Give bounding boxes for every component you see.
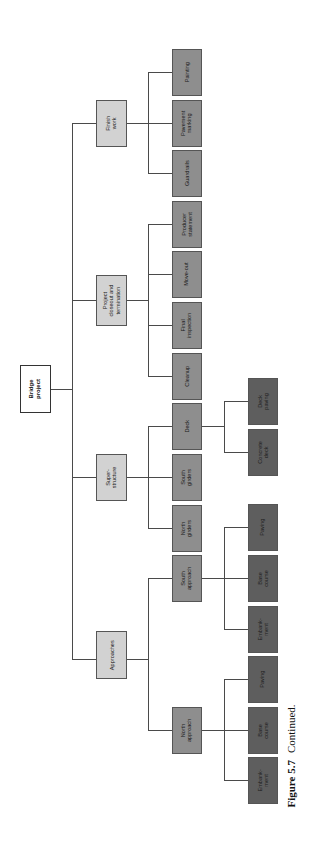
node-move-out: Move-out: [172, 251, 202, 298]
connector-level1-spine: [72, 123, 73, 660]
node-north-base-course: Base course: [248, 707, 278, 754]
node-finish-work: Finish work: [96, 100, 127, 147]
node-label: Move-out: [184, 263, 190, 286]
connector-finish-work-out: [127, 123, 149, 124]
node-producer-statement: Producer statement: [172, 201, 202, 248]
node-south-girders: South girders: [172, 454, 202, 501]
connector-producer-statement: [148, 224, 172, 225]
node-superstructure: Super- structure: [96, 454, 127, 501]
node-label: Approaches: [108, 640, 114, 670]
node-cleanup: Cleanup: [172, 353, 202, 400]
node-deck: Deck: [172, 403, 202, 450]
caption-body: Continued.: [285, 704, 297, 753]
node-south-approach: South approach: [172, 555, 202, 602]
connector-north-embankment: [224, 780, 248, 781]
node-bridge-project: Bridge project: [20, 365, 51, 413]
connector-final-inspection: [148, 325, 172, 326]
node-label: Bridge project: [28, 379, 42, 399]
node-label: Paving: [260, 671, 266, 688]
node-label: Guardrails: [184, 161, 190, 187]
node-label: Deck: [184, 420, 190, 433]
node-label: Deck paving: [257, 393, 270, 409]
connector-deck: [148, 426, 172, 427]
node-label: Pavement marking: [181, 111, 194, 136]
connector-painting: [148, 72, 172, 73]
node-label: Base course: [257, 722, 270, 739]
connector-south-paving: [224, 527, 248, 528]
figure-caption: Figure 5.7Continued.: [282, 706, 300, 806]
connector-closeout-out: [127, 300, 149, 301]
node-label: Project closeout and termination: [102, 285, 121, 317]
node-pavement-marking: Pavement marking: [172, 100, 202, 147]
node-label: Concrete deck: [257, 441, 270, 464]
connector-move-out: [148, 274, 172, 275]
connector-south-approach-out: [202, 578, 248, 579]
connector-finish-work: [72, 123, 96, 124]
node-label: Paving: [260, 519, 266, 536]
node-south-paving: Paving: [248, 504, 278, 551]
node-north-girders: North girders: [172, 505, 202, 552]
connector-south-approach: [148, 578, 172, 579]
node-label: Finish work: [105, 116, 118, 131]
node-label: North girders: [181, 520, 194, 537]
node-label: Embank- ment: [257, 618, 270, 640]
node-south-base-course: Base course: [248, 555, 278, 602]
connector-approaches-out: [127, 659, 149, 660]
node-painting: Painting: [172, 49, 202, 96]
caption-text: Figure 5.7Continued.: [285, 704, 297, 807]
node-label: Cleanup: [184, 366, 190, 387]
connector-concrete-deck: [224, 452, 248, 453]
connector-superstructure-spine: [148, 426, 149, 529]
connector-closeout-spine: [148, 224, 149, 377]
node-label: Producer statement: [181, 212, 194, 237]
connector-north-approach-spine: [224, 679, 225, 781]
connector-north-approach-out: [202, 730, 248, 731]
connector-superstructure-out: [127, 477, 172, 478]
figure-number: Figure 5.7: [285, 760, 297, 807]
node-label: Painting: [184, 62, 190, 82]
connector-north-girders: [148, 528, 172, 529]
node-approaches: Approaches: [96, 631, 127, 679]
connector-approaches: [72, 659, 96, 660]
node-project-closeout: Project closeout and termination: [96, 275, 127, 326]
node-final-inspection: Final inspection: [172, 302, 202, 349]
connector-cleanup: [148, 376, 172, 377]
node-north-approach: North approach: [172, 707, 202, 754]
connector-north-paving: [224, 679, 248, 680]
connector-deck-out: [202, 426, 225, 427]
connector-deck-paving: [224, 401, 248, 402]
node-north-embankment: Embank- ment: [248, 757, 278, 804]
connector-project-closeout: [72, 300, 96, 301]
node-deck-paving: Deck paving: [248, 378, 278, 425]
node-label: North approach: [181, 719, 194, 742]
connector-deck-spine: [224, 401, 225, 453]
connector-superstructure: [72, 477, 96, 478]
node-label: Base course: [257, 570, 270, 587]
node-concrete-deck: Concrete deck: [248, 429, 278, 476]
connector-north-approach: [148, 730, 172, 731]
connector-south-approach-spine: [224, 527, 225, 630]
node-guardrails: Guardrails: [172, 150, 202, 197]
connector-root: [51, 389, 73, 390]
node-label: South approach: [181, 567, 194, 590]
node-label: Super- structure: [105, 467, 118, 489]
connector-guardrails: [148, 173, 172, 174]
node-label: South girders: [181, 469, 194, 486]
connector-south-embankment: [224, 629, 248, 630]
node-south-embankment: Embank- ment: [248, 606, 278, 653]
node-label: Final inspection: [181, 313, 194, 338]
node-label: Embank- ment: [257, 769, 270, 791]
connector-pavement-marking: [148, 123, 172, 124]
node-north-paving: Paving: [248, 656, 278, 703]
connector-approaches-spine: [148, 578, 149, 731]
